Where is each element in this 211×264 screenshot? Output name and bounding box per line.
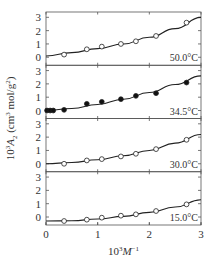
x-axis-title: 103M−1: [108, 245, 140, 257]
data-point-filled: [62, 107, 67, 112]
data-point-filled: [154, 91, 159, 96]
data-point-open: [99, 157, 104, 162]
data-point-open: [119, 213, 124, 218]
y-tick-label: 0: [36, 105, 42, 117]
data-point-open: [154, 147, 159, 152]
data-point-open: [154, 34, 159, 39]
data-point-open: [62, 52, 67, 57]
y-tick-label: 2: [36, 78, 42, 90]
temperature-label: 34.5°C: [170, 106, 198, 117]
data-point-open: [62, 219, 67, 224]
data-point-open: [84, 217, 89, 222]
y-tick-label: 3: [36, 11, 42, 23]
temperature-label: 50.0°C: [170, 52, 198, 63]
y-axis-title: 103A2 (cm3 mol/g2): [4, 76, 19, 160]
data-point-open: [119, 42, 124, 47]
y-tick-label: 2: [36, 131, 42, 143]
y-tick-label: 3: [36, 171, 42, 183]
data-point-filled: [84, 101, 89, 106]
data-point-open: [184, 137, 189, 142]
panel-500c: 012350.0°C: [36, 11, 202, 65]
temperature-label: 30.0°C: [170, 159, 198, 170]
data-point-open: [62, 161, 67, 166]
data-point-open: [99, 215, 104, 220]
y-tick-label: 0: [36, 211, 42, 223]
y-tick-label: 1: [36, 198, 42, 210]
x-tick-label: 0: [43, 228, 49, 240]
y-tick-label: 2: [36, 25, 42, 37]
y-tick-label: 1: [36, 91, 42, 103]
data-point-open: [119, 154, 124, 159]
panel-150c: 012315.0°C: [36, 171, 202, 225]
data-point-open: [99, 44, 104, 49]
data-point-filled: [51, 108, 56, 113]
fit-curve: [46, 17, 201, 56]
x-axis-label: 103M−1: [108, 245, 140, 257]
y-tick-label: 3: [36, 118, 42, 130]
y-tick-label: 0: [36, 51, 42, 63]
data-point-filled: [119, 97, 124, 102]
x-tick-label: 3: [198, 228, 204, 240]
x-tick-label: 1: [95, 228, 101, 240]
y-tick-label: 2: [36, 184, 42, 196]
y-tick-label: 3: [36, 65, 42, 77]
temperature-label: 15.0°C: [170, 212, 198, 223]
data-point-open: [184, 20, 189, 25]
data-point-open: [134, 151, 139, 156]
y-axis-label: 103A2 (cm3 mol/g2): [4, 76, 19, 160]
panel-300c: 012330.0°C: [36, 118, 202, 172]
data-point-open: [154, 209, 159, 214]
data-point-open: [134, 39, 139, 44]
data-point-filled: [184, 80, 189, 85]
data-point-open: [134, 212, 139, 217]
chart-canvas: 012350.0°C012334.5°C012330.0°C012315.0°C…: [0, 0, 211, 264]
data-point-filled: [99, 99, 104, 104]
data-point-open: [84, 47, 89, 52]
y-tick-label: 1: [36, 38, 42, 50]
x-tick-label: 2: [147, 228, 153, 240]
data-point-open: [184, 202, 189, 207]
panels-layer: 012350.0°C012334.5°C012330.0°C012315.0°C: [36, 11, 202, 225]
y-tick-label: 0: [36, 158, 42, 170]
data-point-filled: [134, 93, 139, 98]
y-tick-label: 1: [36, 144, 42, 156]
stacked-scatter-chart: 012350.0°C012334.5°C012330.0°C012315.0°C…: [0, 0, 211, 264]
data-point-open: [84, 158, 89, 163]
panel-345c: 012334.5°C: [36, 65, 202, 119]
